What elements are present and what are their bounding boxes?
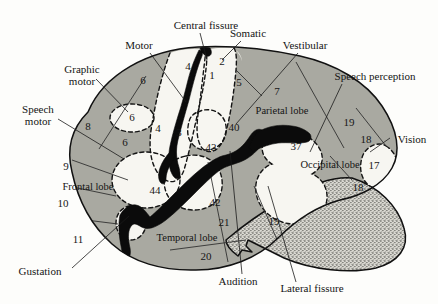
area-number-4-top: 4 (185, 60, 191, 72)
callout-vestibular: Vestibular (283, 39, 328, 51)
area-number-4-mid: 4 (155, 122, 161, 134)
area-number-6-lower: 6 (122, 136, 128, 148)
callout-lateral-fissure: Lateral fissure (280, 282, 343, 294)
area-number-42: 42 (210, 196, 221, 208)
area-number-6-top: 6 (140, 74, 146, 86)
area-number-43: 43 (206, 141, 218, 153)
brain-diagram-figure: Central fissure Motor Somatic Vestibular… (0, 0, 438, 304)
area-number-3: 3 (176, 126, 182, 138)
area-number-7: 7 (274, 85, 280, 97)
area-number-11: 11 (73, 233, 84, 245)
label-parietal-lobe: Parietal lobe (256, 105, 309, 116)
area-number-21: 21 (219, 216, 230, 228)
area-number-40: 40 (229, 121, 241, 133)
area-number-6-circle: 6 (129, 111, 135, 123)
area-number-20: 20 (201, 250, 213, 262)
area-number-18-upper: 18 (361, 133, 373, 145)
callout-graphic-motor-2: motor (69, 75, 96, 87)
callout-vision: Vision (398, 133, 427, 145)
label-temporal-lobe: Temporal lobe (157, 232, 218, 243)
callout-speech-motor: Speech (22, 103, 54, 115)
area-number-17: 17 (369, 159, 381, 171)
callout-central-fissure: Central fissure (174, 19, 239, 31)
area-number-1: 1 (209, 69, 215, 81)
area-number-18-lower: 18 (353, 181, 365, 193)
callout-gustation: Gustation (19, 265, 62, 277)
callout-audition: Audition (218, 275, 258, 287)
area-number-44: 44 (150, 184, 162, 196)
callout-somatic: Somatic (230, 27, 266, 39)
area-number-5: 5 (236, 76, 242, 88)
label-frontal-lobe: Frontal lobe (62, 181, 113, 192)
label-occipital-lobe: Occipital lobe (300, 159, 360, 170)
callout-speech-perception: Speech perception (335, 70, 416, 82)
area-number-19-lower: 19 (269, 215, 281, 227)
brain-lateral-view-svg: Central fissure Motor Somatic Vestibular… (0, 0, 438, 304)
area-number-2: 2 (219, 55, 225, 67)
area-number-8: 8 (85, 120, 91, 132)
callout-motor: Motor (125, 39, 153, 51)
area-number-37: 37 (291, 140, 303, 152)
area-number-10: 10 (58, 197, 70, 209)
area-number-9: 9 (63, 160, 69, 172)
callout-speech-motor-2: motor (25, 115, 52, 127)
area-number-19-upper: 19 (344, 116, 356, 128)
callout-graphic-motor: Graphic (64, 63, 100, 75)
